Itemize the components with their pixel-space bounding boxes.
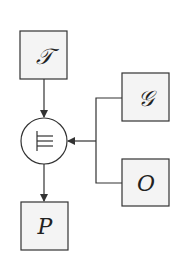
- node-t: 𝒯: [20, 31, 67, 79]
- edge-g-o-bracket: [96, 98, 122, 183]
- node-p-label: P: [37, 214, 54, 239]
- node-p: P: [21, 202, 68, 250]
- operator-node: [21, 118, 67, 164]
- node-o-label: O: [137, 171, 155, 196]
- node-g: 𝒢: [122, 73, 169, 121]
- diagram-canvas: 𝒯 𝒢 O P: [0, 0, 191, 268]
- node-o: O: [122, 159, 169, 206]
